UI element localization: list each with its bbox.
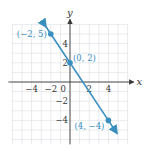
data-point — [48, 31, 54, 37]
data-point-label: (−2, 5) — [17, 29, 47, 39]
y-axis-label: y — [66, 7, 73, 18]
data-point-label: (4, −4) — [74, 121, 104, 131]
data-point — [67, 60, 73, 66]
data-point — [106, 118, 112, 124]
x-tick-label: 4 — [106, 84, 111, 94]
y-tick-label: −2 — [55, 96, 68, 106]
x-axis-label: x — [137, 76, 143, 87]
x-tick-label: 0 — [61, 84, 66, 94]
data-point-label: (0, 2) — [73, 53, 96, 63]
y-tick-label: 4 — [63, 39, 68, 49]
chart: −4−202442−2−4 (−2, 5)(0, 2)(4, −4) x y — [0, 0, 145, 151]
x-tick-label: −2 — [45, 84, 58, 94]
x-tick-label: −4 — [25, 84, 38, 94]
y-tick-label: −4 — [55, 115, 68, 125]
